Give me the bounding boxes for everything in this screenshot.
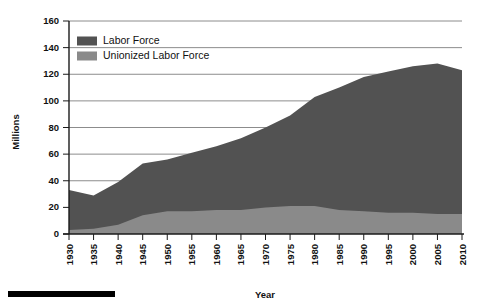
x-tick-marks: [69, 234, 462, 240]
legend-label: Unionized Labor Force: [103, 49, 209, 61]
y-tick-label: 0: [54, 228, 59, 239]
x-tick-label: 1975: [285, 243, 296, 265]
x-tick-label: 1955: [186, 243, 197, 265]
x-tick-label: 2000: [407, 244, 418, 265]
x-tick-label: 1965: [235, 243, 246, 265]
legend-swatch: [77, 37, 97, 46]
y-axis-title: Millions: [10, 114, 21, 149]
x-tick-label: 2005: [432, 243, 443, 265]
y-tick-label: 60: [48, 148, 59, 159]
y-tick-marks: [63, 21, 69, 234]
area-series-group: [69, 64, 462, 234]
x-tick-label: 1945: [137, 243, 148, 265]
labor-force-chart: 020406080100120140160 193019351940194519…: [0, 0, 479, 307]
y-tick-labels: 020406080100120140160: [43, 15, 59, 239]
x-tick-label: 1985: [334, 243, 345, 265]
x-tick-label: 1930: [64, 244, 75, 265]
x-tick-label: 1980: [309, 244, 320, 265]
x-tick-label: 2010: [457, 244, 468, 265]
chart-canvas: 020406080100120140160 193019351940194519…: [0, 0, 479, 307]
x-tick-label: 1970: [260, 244, 271, 265]
x-tick-labels: 1930193519401945195019551960196519701975…: [64, 243, 468, 265]
x-tick-label: 1950: [162, 244, 173, 265]
x-axis-title: Year: [255, 289, 275, 300]
y-tick-label: 160: [43, 15, 59, 26]
y-tick-label: 120: [43, 68, 59, 79]
legend-swatch: [77, 52, 97, 61]
legend-label: Labor Force: [103, 34, 160, 46]
x-tick-label: 1935: [88, 243, 99, 265]
x-tick-label: 1940: [113, 244, 124, 265]
y-tick-label: 140: [43, 42, 59, 53]
x-tick-label: 1995: [383, 243, 394, 265]
y-tick-label: 80: [48, 122, 59, 133]
footer-rule: [8, 291, 115, 297]
y-tick-label: 40: [48, 175, 59, 186]
x-tick-label: 1990: [358, 244, 369, 265]
y-tick-label: 20: [48, 201, 59, 212]
x-tick-label: 1960: [211, 244, 222, 265]
y-tick-label: 100: [43, 95, 59, 106]
